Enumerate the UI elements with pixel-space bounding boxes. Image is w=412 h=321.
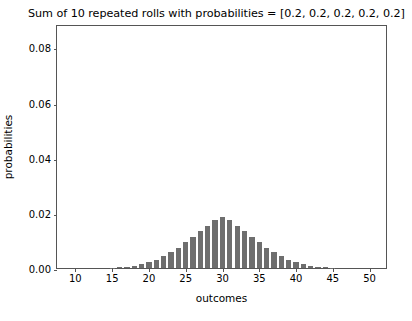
y-tick-label: 0.00 [29, 265, 51, 275]
y-tick-mark [54, 160, 58, 161]
x-tick-label: 50 [363, 274, 376, 284]
bar [235, 226, 240, 268]
x-tick-label: 25 [179, 274, 192, 284]
y-axis-label: probabilities [3, 115, 14, 180]
plot-area: 0.000.020.040.060.08 101520253035404550 [56, 25, 387, 269]
bar [315, 267, 320, 268]
y-tick-mark [54, 49, 58, 50]
y-tick-mark [54, 105, 58, 106]
x-tick-mark [333, 268, 334, 272]
x-tick-label: 35 [253, 274, 266, 284]
bar [117, 267, 122, 268]
x-tick-label: 30 [216, 274, 229, 284]
bar [264, 248, 269, 268]
x-tick-mark [75, 268, 76, 272]
x-tick-mark [296, 268, 297, 272]
bars-layer [57, 26, 386, 268]
bar [301, 264, 306, 268]
x-tick-label: 45 [326, 274, 339, 284]
x-tick-mark [370, 268, 371, 272]
bar [227, 220, 232, 268]
bar [161, 256, 166, 268]
y-tick-mark [54, 215, 58, 216]
bar [257, 242, 262, 268]
bar [242, 231, 247, 268]
x-axis-label: outcomes [56, 293, 387, 304]
bar [279, 256, 284, 268]
bar [132, 266, 137, 268]
x-tick-mark [223, 268, 224, 272]
x-tick-mark [259, 268, 260, 272]
bar [168, 252, 173, 268]
bar [308, 266, 313, 268]
bar [190, 237, 195, 268]
bar [205, 226, 210, 268]
x-tick-label: 15 [106, 274, 119, 284]
bar [323, 267, 328, 268]
y-tick-label: 0.08 [29, 44, 51, 54]
y-tick-mark [54, 270, 58, 271]
y-tick-label: 0.02 [29, 210, 51, 220]
bar [183, 242, 188, 268]
x-tick-mark [186, 268, 187, 272]
x-tick-mark [149, 268, 150, 272]
bar [176, 248, 181, 268]
x-tick-label: 40 [290, 274, 303, 284]
x-tick-label: 20 [143, 274, 156, 284]
bar [271, 252, 276, 268]
bar [154, 260, 159, 268]
bar [286, 260, 291, 268]
bar [212, 220, 217, 268]
chart-title: Sum of 10 repeated rolls with probabilit… [28, 6, 405, 21]
y-tick-label: 0.04 [29, 155, 51, 165]
x-tick-mark [112, 268, 113, 272]
bar [124, 267, 129, 268]
x-tick-label: 10 [69, 274, 82, 284]
bar [249, 237, 254, 268]
figure-canvas: Sum of 10 repeated rolls with probabilit… [0, 0, 412, 321]
bar [198, 231, 203, 268]
y-tick-label: 0.06 [29, 100, 51, 110]
bar [220, 217, 225, 268]
bar [139, 264, 144, 268]
